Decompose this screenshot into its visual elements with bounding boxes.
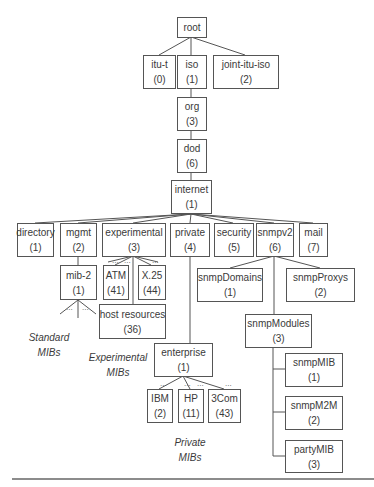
node-number: (1) [72,283,84,298]
ellipsis: ... [82,304,89,312]
node-name: host resources [100,307,166,322]
ellipsis: ... [66,304,73,312]
node-mail: mail (7) [299,223,328,257]
node-name: snmpProxys [293,270,348,285]
label-line: Experimental [86,350,150,365]
node-number: (1) [185,197,197,212]
node-partymib: partyMIB (3) [285,440,343,473]
ellipsis: ... [225,380,232,388]
node-name: enterprise [161,345,205,360]
node-snmpv2: snmpv2 (6) [256,223,294,257]
node-number: (1) [29,240,41,255]
node-name: snmpDomains [198,270,262,285]
node-name: itu-t [151,57,168,72]
node-number: (1) [186,72,198,87]
node-number: (0) [153,72,165,87]
node-hp: HP (11) [178,389,204,423]
node-org: org (3) [177,97,207,131]
label-line: MIBs [24,345,74,360]
node-name: 3Com [211,391,238,406]
node-name: IBM [151,391,169,406]
node-number: (2) [314,285,326,300]
node-number: (1) [224,285,236,300]
node-number: (3) [186,114,198,129]
node-name: snmpv2 [257,225,292,240]
node-number: (4) [184,240,196,255]
node-name: ATM [106,268,126,283]
node-number: (3) [128,240,140,255]
node-directory: directory (1) [17,223,54,257]
ellipsis: ... [152,257,159,265]
label-experimental-mibs: Experimental MIBs [86,350,150,380]
node-snmpmodules: snmpModules (3) [245,314,312,348]
node-snmpdomains: snmpDomains (1) [197,268,263,302]
node-root: root [177,17,207,38]
node-name: private [175,225,205,240]
label-line: MIBs [86,365,150,380]
node-internet: internet (1) [171,180,212,214]
node-number: (2) [72,240,84,255]
label-standard-mibs: Standard MIBs [24,330,74,360]
node-number: (2) [308,413,320,428]
ellipsis: ... [112,257,119,265]
node-number: (3) [272,331,284,346]
node-x25: X.25 (44) [138,265,166,300]
node-name: internet [175,182,208,197]
label-line: MIBs [167,450,213,465]
node-name: HP [184,391,198,406]
node-name: iso [186,57,199,72]
node-dod: dod (6) [177,139,207,173]
node-itu-t: itu-t (0) [143,55,176,89]
node-number: (2) [154,406,166,421]
node-snmpproxys: snmpProxys (2) [286,268,355,302]
node-number: (2) [240,72,252,87]
node-security: security (5) [214,223,254,257]
node-name: dod [184,141,201,156]
node-name: snmpM2M [291,398,338,413]
node-number: (1) [308,370,320,385]
ellipsis: ... [124,257,131,265]
node-3com: 3Com (43) [208,389,241,423]
node-name: partyMIB [294,442,334,457]
node-number: (36) [124,322,142,337]
node-number: (7) [307,240,319,255]
node-number: (6) [186,156,198,171]
node-experimental: experimental (3) [102,223,166,257]
node-name: experimental [105,225,162,240]
ellipsis: ... [160,380,167,388]
ellipsis: ... [197,380,204,388]
node-number: (5) [228,240,240,255]
node-joint-itu-iso: joint-itu-iso (2) [213,55,279,89]
node-snmpm2m: snmpM2M (2) [285,396,343,430]
node-number: (3) [308,457,320,472]
node-name: root [183,20,200,35]
label-line: Standard [24,330,74,345]
node-name: mgmt [66,225,91,240]
node-name: joint-itu-iso [222,57,270,72]
node-mgmt: mgmt (2) [60,223,97,257]
node-name: directory [16,225,54,240]
node-private: private (4) [170,223,210,257]
node-number: (41) [107,283,125,298]
node-number: (44) [143,283,161,298]
node-name: org [185,99,199,114]
node-name: mail [304,225,322,240]
node-name: snmpModules [247,316,309,331]
label-private-mibs: Private MIBs [167,435,213,465]
node-number: (6) [269,240,281,255]
node-enterprise: enterprise (1) [154,343,213,377]
ellipsis: ... [184,380,191,388]
node-name: security [217,225,251,240]
node-name: snmpMIB [293,355,335,370]
node-iso: iso (1) [177,55,207,89]
node-ibm: IBM (2) [147,389,173,423]
node-number: (43) [216,406,234,421]
node-name: mib-2 [66,268,91,283]
node-number: (1) [177,360,189,375]
node-number: (11) [182,406,199,421]
node-mib-2: mib-2 (1) [60,265,97,300]
label-line: Private [167,435,213,450]
node-atm: ATM (41) [103,265,129,300]
node-host-resources: host resources (36) [99,304,166,339]
node-name: X.25 [142,268,163,283]
